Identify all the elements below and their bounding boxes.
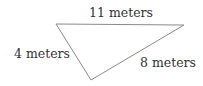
side-label-top: 11 meters	[89, 5, 153, 20]
triangle-diagram: 11 meters 4 meters 8 meters	[0, 0, 203, 86]
side-label-right: 8 meters	[140, 55, 196, 70]
side-label-left: 4 meters	[14, 46, 70, 61]
triangle-shape	[56, 24, 184, 80]
